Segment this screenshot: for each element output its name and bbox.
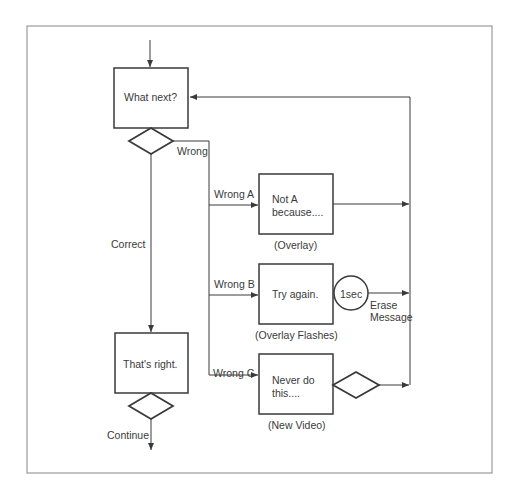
decision-diamond-2 bbox=[129, 393, 173, 419]
box-a-caption: (Overlay) bbox=[274, 239, 317, 251]
box-a-line2: because.... bbox=[272, 206, 323, 218]
what-next-label: What next? bbox=[124, 91, 177, 103]
wrong-path bbox=[173, 141, 209, 375]
box-b-label: Try again. bbox=[272, 288, 318, 300]
wrong-c-label: Wrong C bbox=[213, 367, 255, 379]
box-b-caption: (Overlay Flashes) bbox=[255, 329, 338, 341]
timer-label: 1sec bbox=[340, 288, 362, 300]
box-c-line1: Never do bbox=[272, 374, 315, 386]
box-c-line2: this.... bbox=[272, 387, 300, 399]
erase-label-1: Erase bbox=[370, 299, 398, 311]
decision-diamond-c bbox=[333, 372, 379, 398]
box-a-line1: Not A bbox=[272, 193, 298, 205]
decision-diamond-1 bbox=[129, 128, 173, 154]
erase-label-2: Message bbox=[370, 311, 413, 323]
thats-right-label: That's right. bbox=[123, 358, 178, 370]
wrong-a-label: Wrong A bbox=[214, 188, 254, 200]
flowchart: What next? Wrong Correct Wrong A Not A b… bbox=[0, 0, 514, 486]
box-c-caption: (New Video) bbox=[268, 419, 326, 431]
wrong-label: Wrong bbox=[177, 145, 208, 157]
correct-label: Correct bbox=[111, 238, 146, 250]
continue-label: Continue bbox=[107, 429, 149, 441]
wrong-b-label: Wrong B bbox=[214, 278, 255, 290]
